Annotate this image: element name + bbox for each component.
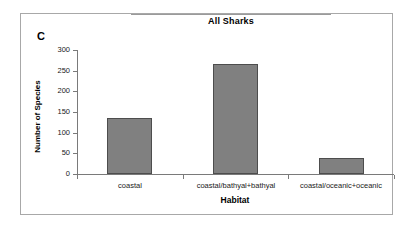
y-tick-label: 0: [43, 170, 70, 178]
bar: [213, 64, 258, 174]
x-axis-line: [77, 174, 394, 175]
x-tick: [394, 175, 395, 179]
y-axis-line: [77, 50, 78, 175]
plot-area: 050100150200250300 coastalcoastal/bathya…: [77, 50, 394, 175]
panel-label: C: [37, 30, 45, 42]
y-tick: [73, 91, 77, 92]
x-tick: [77, 175, 78, 179]
x-tick: [288, 175, 289, 179]
figure-frame: All Sharks C Number of Species Habitat 0…: [20, 13, 393, 215]
chart-title: All Sharks: [131, 15, 331, 27]
y-tick-label: 200: [43, 87, 70, 95]
y-tick-label: 50: [43, 149, 70, 157]
y-tick: [73, 112, 77, 113]
y-tick: [73, 50, 77, 51]
y-tick-label: 250: [43, 67, 70, 75]
x-tick: [183, 175, 184, 179]
y-tick-label: 300: [43, 46, 70, 54]
y-tick: [73, 153, 77, 154]
y-tick-label: 100: [43, 129, 70, 137]
bar: [319, 158, 364, 174]
x-category-label: coastal/oceanic+oceanic: [288, 181, 394, 190]
x-category-label: coastal/bathyal+bathyal: [183, 181, 289, 190]
y-tick: [73, 133, 77, 134]
y-tick: [73, 71, 77, 72]
y-axis-title: Number of Species: [33, 62, 42, 172]
bar: [107, 118, 152, 174]
x-axis-title: Habitat: [76, 195, 394, 205]
x-category-label: coastal: [77, 181, 183, 190]
y-tick-label: 150: [43, 108, 70, 116]
